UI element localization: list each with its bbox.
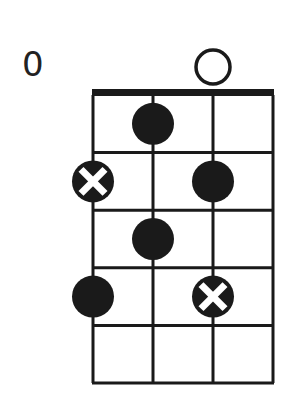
open-string-markers: [196, 50, 230, 84]
open-string-icon: [196, 50, 230, 84]
nut: [92, 89, 274, 96]
fretboard-grid: [92, 89, 274, 383]
chord-diagram: [0, 0, 295, 395]
finger-dot-icon: [132, 103, 174, 145]
finger-dot-icon: [192, 160, 234, 202]
finger-dot-icon: [132, 218, 174, 260]
finger-dot-icon: [72, 276, 114, 318]
muted-x-marker-icon: [72, 160, 114, 202]
muted-x-marker-icon: [192, 276, 234, 318]
